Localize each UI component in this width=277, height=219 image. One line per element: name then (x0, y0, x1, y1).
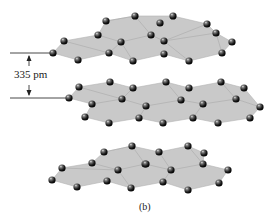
carbon-atom-icon (156, 19, 163, 26)
carbon-atom-icon (48, 176, 55, 183)
carbon-atom-icon (256, 103, 263, 110)
carbon-atom-icon (65, 94, 72, 101)
carbon-atom-icon (240, 84, 247, 91)
carbon-atom-icon (129, 84, 136, 91)
carbon-atom-icon (106, 78, 113, 85)
carbon-atom-icon (184, 186, 191, 193)
carbon-atom-icon (169, 12, 176, 19)
carbon-atom-icon (155, 148, 162, 155)
carbon-atom-icon (160, 37, 167, 44)
carbon-atom-icon (147, 31, 154, 38)
carbon-atom-icon (228, 38, 235, 45)
carbon-atom-icon (100, 148, 107, 155)
carbon-atom-icon (162, 78, 169, 85)
carbon-atom-icon (160, 50, 167, 57)
carbon-atom-icon (88, 159, 95, 166)
carbon-atom-icon (118, 95, 125, 102)
graphene-sheet-middle (69, 82, 260, 123)
carbon-atom-icon (185, 57, 192, 64)
carbon-atom-icon (214, 119, 221, 126)
carbon-atom-icon (103, 177, 110, 184)
carbon-atom-icon (128, 142, 135, 149)
carbon-atom-icon (74, 56, 81, 63)
carbon-atom-icon (184, 142, 191, 149)
carbon-atom-icon (94, 31, 101, 38)
carbon-atom-icon (117, 38, 124, 45)
carbon-atom-icon (199, 100, 206, 107)
carbon-atom-icon (212, 29, 219, 36)
carbon-atom-icon (200, 149, 207, 156)
carbon-atom-icon (114, 166, 121, 173)
carbon-atom-icon (199, 160, 206, 167)
carbon-atom-icon (102, 17, 109, 24)
carbon-atom-icon (142, 102, 149, 109)
carbon-atom-icon (75, 83, 82, 90)
carbon-atom-icon (49, 49, 56, 56)
figure-caption: (b) (139, 201, 151, 212)
carbon-atom-icon (142, 160, 149, 167)
carbon-atom-icon (81, 113, 88, 120)
carbon-atom-icon (217, 78, 224, 85)
carbon-atom-icon (232, 95, 239, 102)
up-arrow-head-icon (27, 55, 32, 61)
carbon-atom-icon (135, 114, 142, 121)
carbon-atom-icon (177, 96, 184, 103)
carbon-atom-icon (218, 49, 225, 56)
carbon-atom-icon (131, 12, 138, 19)
interlayer-spacing-label: 335 pm (14, 68, 47, 80)
carbon-atom-icon (127, 184, 134, 191)
carbon-atom-icon (58, 164, 65, 171)
carbon-atom-icon (129, 57, 136, 64)
carbon-atom-icon (203, 20, 210, 27)
carbon-atom-icon (105, 119, 112, 126)
carbon-atom-icon (246, 114, 253, 121)
carbon-atom-icon (88, 100, 95, 107)
carbon-atom-icon (167, 166, 174, 173)
carbon-atom-icon (60, 37, 67, 44)
carbon-atom-icon (224, 166, 231, 173)
carbon-atom-icon (189, 114, 196, 121)
down-arrow-head-icon (27, 90, 32, 96)
carbon-atom-icon (73, 183, 80, 190)
graphite-layers-diagram (0, 0, 277, 219)
carbon-atom-icon (215, 179, 222, 186)
carbon-atom-icon (185, 84, 192, 91)
carbon-atom-icon (159, 119, 166, 126)
carbon-atom-icon (159, 178, 166, 185)
carbon-atom-icon (105, 49, 112, 56)
